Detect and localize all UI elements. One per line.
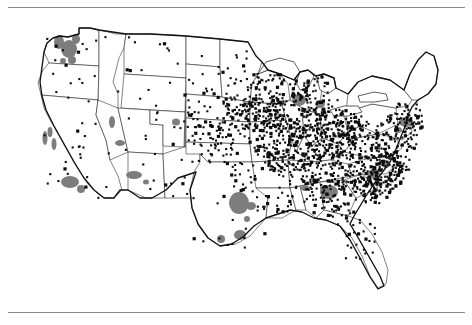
data-point [240,80,242,82]
data-point [317,145,319,147]
data-point [333,205,335,207]
data-point [268,79,270,81]
data-point [364,166,366,168]
data-point [339,121,341,123]
data-point [380,179,382,181]
data-point [145,135,147,137]
data-point [128,117,130,119]
data-point [198,160,200,162]
data-point [259,129,262,132]
data-point [263,135,265,137]
data-point [349,212,351,214]
data-point [188,106,190,108]
data-point [379,182,382,185]
data-point [353,231,355,233]
data-point [265,117,267,119]
data-point [319,173,321,175]
data-point [86,176,88,178]
data-point [282,93,285,96]
data-point [267,108,269,110]
data-point [396,106,398,108]
data-point [230,147,232,149]
data-point [348,144,350,146]
data-point [334,115,337,118]
data-point [378,147,380,149]
data-point [239,173,241,175]
data-point [325,135,328,138]
data-point [299,130,301,132]
data-point [316,81,318,83]
data-point [293,121,296,124]
data-point [259,94,261,96]
data-point [187,126,189,128]
data-point [337,128,339,130]
data-point [309,109,311,111]
data-point [312,140,314,142]
data-point [354,116,357,119]
data-point [230,154,232,156]
data-point [288,200,291,203]
data-point [314,151,316,153]
data-point [337,180,339,182]
data-point [380,169,382,171]
data-point [95,123,97,125]
data-point [54,59,56,61]
data-point [384,155,386,157]
data-point [332,162,334,164]
data-point [311,126,313,128]
data-point [309,181,311,183]
data-point [201,145,203,147]
data-point [258,98,260,100]
data-point [374,166,376,168]
data-point [277,102,279,104]
data-point [218,73,220,75]
data-point [326,201,328,203]
data-point [226,93,228,95]
data-point [375,142,377,144]
data-point [309,195,311,197]
data-point [397,137,399,139]
data-point [378,150,380,152]
data-point [364,136,366,138]
data-point [248,127,250,129]
data-point [307,80,310,83]
map-svg [0,12,472,308]
data-point [168,49,170,51]
state-nd [186,36,220,67]
data-point [227,85,229,87]
data-point [316,123,318,125]
data-point [202,73,204,75]
data-point [307,124,309,126]
data-point [341,166,344,169]
data-point [413,147,416,150]
data-point [368,123,370,125]
data-point [356,139,358,141]
data-point [280,166,282,168]
data-point [300,96,303,99]
data-point [342,177,344,179]
data-point [303,89,305,91]
data-point [280,171,282,173]
data-point [329,154,331,156]
data-point [355,191,357,193]
data-point [319,122,321,124]
data-point [406,122,408,124]
data-point [265,195,267,197]
data-point [296,118,298,120]
data-point [419,127,421,129]
urban-san-jose [52,138,57,150]
data-point [192,135,194,137]
data-point [297,123,299,125]
data-point [134,41,136,43]
data-point [210,144,212,146]
data-point [237,130,239,132]
data-point [327,194,329,196]
data-point [289,118,292,121]
data-point [225,148,227,150]
data-point [394,129,397,132]
data-point [286,165,288,167]
data-point [222,136,224,138]
data-point [407,143,409,145]
data-point [192,118,194,120]
data-point [319,144,321,146]
